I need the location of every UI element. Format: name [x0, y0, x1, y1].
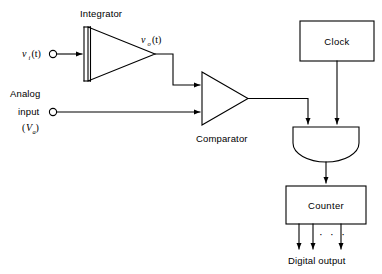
adc-block-diagram: Integrator Comparator Clock Counter v i … — [0, 0, 382, 274]
analog-input-net — [49, 108, 200, 115]
counter-label: Counter — [308, 200, 344, 211]
integrator-label: Integrator — [80, 8, 122, 19]
svg-text:i: i — [29, 54, 31, 61]
input-voltage-terminal — [49, 50, 56, 57]
svg-text:Analog: Analog — [10, 88, 40, 99]
comparator-triangle — [202, 72, 248, 125]
integrator-output-label: v o (t) — [141, 34, 161, 47]
diagram-canvas: Integrator Comparator Clock Counter v i … — [0, 0, 382, 274]
comparator-to-and-net — [248, 99, 308, 125]
svg-text:v: v — [141, 34, 146, 45]
digital-output-label: Digital output — [288, 255, 346, 266]
svg-text:(t): (t) — [152, 34, 161, 46]
input-voltage-label: v i (t) — [22, 48, 41, 61]
comparator-block — [202, 72, 248, 125]
svg-text:o: o — [148, 40, 152, 47]
svg-text:): ) — [36, 122, 39, 134]
comparator-label: Comparator — [196, 133, 248, 144]
output-bits-ellipsis: · · · — [319, 228, 347, 240]
input-voltage-net — [49, 50, 82, 57]
wire-vo-to-comparator — [155, 54, 200, 85]
and-gate-shape — [293, 127, 359, 162]
integrator-to-comparator-net — [155, 54, 200, 85]
svg-text:(t): (t) — [32, 48, 41, 60]
wire-comparator-to-andgate — [248, 99, 308, 125]
and-gate-block — [293, 127, 359, 162]
svg-text:input: input — [18, 106, 40, 117]
svg-text:v: v — [22, 48, 27, 59]
analog-input-label: Analog input ( V a ) — [10, 88, 40, 135]
clock-label: Clock — [324, 36, 349, 47]
analog-input-terminal — [49, 108, 56, 115]
